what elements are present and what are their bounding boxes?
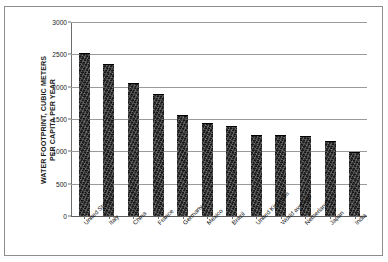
- y-tick-label: 0: [63, 213, 67, 220]
- bar[interactable]: [153, 94, 164, 216]
- x-label-slot: France: [146, 221, 171, 262]
- bar[interactable]: [202, 123, 213, 216]
- y-tick-mark: [68, 151, 71, 152]
- bar-series: [72, 22, 367, 216]
- bar[interactable]: [251, 135, 262, 216]
- top-cutoff-text: [0, 0, 388, 5]
- bar-slot: [170, 22, 195, 216]
- y-tick-mark: [68, 183, 71, 184]
- bar-slot: [318, 22, 343, 216]
- y-tick-mark: [68, 119, 71, 120]
- bar-slot: [195, 22, 220, 216]
- bar[interactable]: [79, 53, 90, 216]
- x-label-slot: United States: [72, 221, 97, 262]
- x-label-slot: India: [342, 221, 367, 262]
- y-tick-label: 3000: [52, 19, 67, 26]
- y-axis-title-line-1: WATER FOOTPRINT, CUBIC METERS: [40, 56, 48, 184]
- x-axis-labels: United StatesItalyChinaFranceGermanyMexi…: [72, 221, 367, 262]
- x-label-slot: China: [121, 221, 146, 262]
- bar-slot: [72, 22, 97, 216]
- y-tick-mark: [68, 22, 71, 23]
- bar[interactable]: [128, 83, 139, 216]
- bar-slot: [269, 22, 294, 216]
- y-tick-label: 1000: [52, 148, 67, 155]
- y-tick-mark: [68, 54, 71, 55]
- bar-slot: [293, 22, 318, 216]
- bar-slot: [146, 22, 171, 216]
- x-label-slot: United Kingdom: [244, 221, 269, 262]
- y-tick-label: 500: [56, 180, 67, 187]
- bar-slot: [342, 22, 367, 216]
- bar[interactable]: [177, 115, 188, 216]
- x-label-slot: Netherlands: [293, 221, 318, 262]
- plot-area: 050010001500200025003000 United StatesIt…: [71, 22, 367, 216]
- y-tick-mark: [68, 216, 71, 217]
- bar[interactable]: [349, 152, 360, 216]
- y-tick-label: 2000: [52, 83, 67, 90]
- y-tick-label: 1500: [52, 116, 67, 123]
- x-label-slot: Japan: [318, 221, 343, 262]
- x-label-slot: Germany: [170, 221, 195, 262]
- chart-outer-frame: WATER FOOTPRINT, CUBIC METERS PER CAPITA…: [4, 6, 383, 256]
- y-tick-mark: [68, 86, 71, 87]
- bar[interactable]: [103, 64, 114, 216]
- x-label-slot: Brazil: [219, 221, 244, 262]
- x-label-slot: Italy: [97, 221, 122, 262]
- bar-slot: [219, 22, 244, 216]
- bar[interactable]: [226, 126, 237, 216]
- bar-slot: [121, 22, 146, 216]
- chart-figure: WATER FOOTPRINT, CUBIC METERS PER CAPITA…: [0, 0, 388, 262]
- x-label-slot: Mexico: [195, 221, 220, 262]
- bar-slot: [97, 22, 122, 216]
- y-tick-label: 2500: [52, 51, 67, 58]
- x-label-slot: World average: [269, 221, 294, 262]
- plot-inner: 050010001500200025003000: [71, 22, 367, 216]
- bar-slot: [244, 22, 269, 216]
